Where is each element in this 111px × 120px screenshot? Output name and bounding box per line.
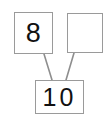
connector-right-line [66,53,74,80]
number-bond-diagram: 8 10 [0,0,111,120]
whole-box[interactable]: 10 [35,80,84,114]
part-left-box[interactable]: 8 [14,12,53,54]
connector-left-line [44,54,52,80]
part-right-box[interactable] [67,13,103,53]
whole-value: 10 [43,85,77,110]
part-left-value: 8 [26,20,42,47]
